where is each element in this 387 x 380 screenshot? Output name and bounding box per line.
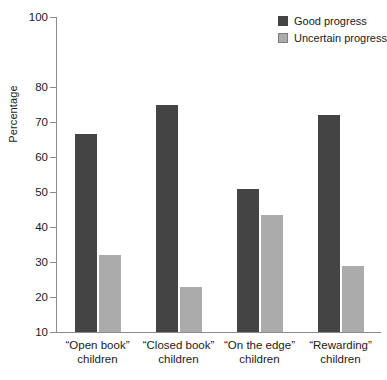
category-label-line2: children [57,352,138,366]
y-axis-tick [50,297,56,298]
bar-group [57,17,138,332]
category-label-line2: children [138,352,219,366]
x-axis-category-label: “Open book”children [57,338,138,366]
legend-label-good-progress: Good progress [294,15,367,27]
legend-item-good-progress: Good progress [278,13,387,28]
bar-good-progress [75,134,97,332]
legend-swatch-icon-uncertain-progress [278,33,288,43]
y-axis-tick-label: 50 [18,187,48,199]
bar-uncertain-progress [99,255,121,332]
y-axis-tick-label: 10 [18,327,48,339]
y-axis-tick-label: 30 [18,257,48,269]
y-axis-tick-label: 60 [18,152,48,164]
bar-good-progress [318,115,340,332]
y-axis-tick-label: 40 [18,222,48,234]
plot-area [57,17,381,332]
y-axis-tick-label: 100 [18,12,48,24]
bar-chart: Percentage 1020304050607080100 “Open boo… [0,0,387,380]
y-axis-tick [50,332,56,333]
y-axis-tick [50,227,56,228]
x-axis-category-label: “Closed book”children [138,338,219,366]
category-label-line1: “Open book” [66,339,130,351]
category-label-line2: children [300,352,381,366]
bar-group [138,17,219,332]
x-axis-line [56,332,381,333]
x-axis-category-label: “On the edge”children [219,338,300,366]
legend-item-uncertain-progress: Uncertain progress [278,30,387,45]
legend: Good progress Uncertain progress [278,13,387,47]
bar-uncertain-progress [261,215,283,332]
y-axis-tick-label: 20 [18,292,48,304]
y-axis-tick [50,262,56,263]
y-axis-tick [50,122,56,123]
bar-good-progress [237,189,259,333]
category-label-line2: children [219,352,300,366]
y-axis-tick-label: 80 [18,82,48,94]
y-axis-tick [50,17,56,18]
bar-group [219,17,300,332]
bar-uncertain-progress [180,287,202,333]
y-axis-tick [50,157,56,158]
legend-swatch-icon-good-progress [278,16,288,26]
bar-group [300,17,381,332]
bar-good-progress [156,105,178,333]
category-label-line1: “Rewarding” [309,339,372,351]
category-label-line1: “On the edge” [224,339,295,351]
y-axis-tick-label: 70 [18,117,48,129]
legend-label-uncertain-progress: Uncertain progress [294,32,387,44]
x-axis-category-label: “Rewarding”children [300,338,381,366]
y-axis-tick [50,87,56,88]
y-axis-tick [50,192,56,193]
bar-uncertain-progress [342,266,364,333]
category-label-line1: “Closed book” [143,339,215,351]
